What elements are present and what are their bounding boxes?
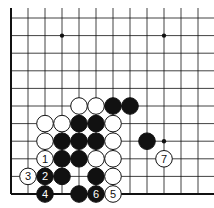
black-stone: [71, 115, 88, 132]
white-stone: [37, 133, 54, 150]
move-number: 6: [93, 188, 99, 200]
white-stone: 5: [105, 186, 122, 203]
black-stone: [122, 98, 139, 115]
black-stone: [88, 168, 105, 185]
black-stone: [139, 133, 156, 150]
white-stone: [105, 115, 122, 132]
white-stone: [37, 115, 54, 132]
white-stone: 7: [156, 151, 173, 168]
black-stone: [71, 151, 88, 168]
move-number: 7: [161, 153, 167, 165]
white-stone: [105, 168, 122, 185]
white-stone: 1: [37, 151, 54, 168]
move-number: 3: [25, 170, 31, 182]
white-stone: [71, 98, 88, 115]
star-point-icon: [162, 33, 166, 37]
black-stone: 2: [37, 168, 54, 185]
white-stone: [105, 133, 122, 150]
black-stone: 6: [88, 186, 105, 203]
black-stone: [71, 186, 88, 203]
black-stone: [71, 133, 88, 150]
star-point-icon: [60, 33, 64, 37]
white-stone: [88, 151, 105, 168]
white-stone: [54, 115, 71, 132]
move-number: 4: [42, 188, 48, 200]
black-stone: [88, 115, 105, 132]
black-stone: 4: [37, 186, 54, 203]
white-stone: [88, 98, 105, 115]
move-number: 2: [42, 170, 48, 182]
black-stone: [54, 133, 71, 150]
move-number: 5: [110, 188, 116, 200]
black-stone: [54, 151, 71, 168]
black-stone: [88, 133, 105, 150]
move-number: 1: [42, 153, 48, 165]
white-stone: 3: [20, 168, 37, 185]
star-point-icon: [162, 139, 166, 143]
go-board-diagram: 1732465: [0, 0, 214, 208]
black-stone: [105, 98, 122, 115]
black-stone: [54, 168, 71, 185]
white-stone: [105, 151, 122, 168]
